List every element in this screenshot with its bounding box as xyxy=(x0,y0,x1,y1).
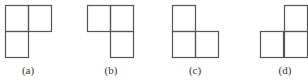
figure-label-c: (c) xyxy=(189,64,202,77)
square-cell xyxy=(6,6,29,32)
figure-d xyxy=(261,6,308,58)
square-cell xyxy=(285,6,308,32)
square-cell xyxy=(196,32,219,58)
square-cell xyxy=(111,6,134,32)
figure-label-a: (a) xyxy=(22,64,35,77)
square-cell xyxy=(88,6,111,32)
square-cell xyxy=(261,32,284,58)
figure-label-d: (d) xyxy=(279,64,292,77)
square-cell xyxy=(173,32,196,58)
figure-a xyxy=(6,6,52,58)
figure-label-b: (b) xyxy=(105,64,118,77)
square-cell xyxy=(111,32,134,58)
square-cell xyxy=(29,6,52,32)
square-cell xyxy=(173,6,196,32)
l-tromino-figures: (a) (b) (c) (d) xyxy=(0,0,308,82)
square-cell xyxy=(6,32,29,58)
square-cell xyxy=(285,32,308,58)
figure-c xyxy=(173,6,219,58)
figure-b xyxy=(88,6,134,58)
